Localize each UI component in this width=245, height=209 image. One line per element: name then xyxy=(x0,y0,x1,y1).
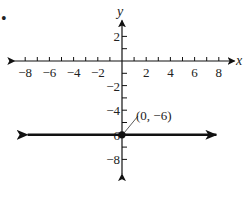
y-tick-label: −4 xyxy=(106,103,120,118)
x-axis-label: x xyxy=(235,53,243,68)
item-bullet: • xyxy=(1,10,7,27)
y-tick-label: −8 xyxy=(106,152,120,167)
x-tick-label: −8 xyxy=(18,65,32,80)
y-tick-label: 2 xyxy=(114,29,121,44)
axes xyxy=(14,20,234,174)
x-tick-label: −2 xyxy=(91,65,105,80)
x-tick-label: 6 xyxy=(191,65,198,80)
x-tick-label: −6 xyxy=(42,65,56,80)
x-tick-label: 4 xyxy=(167,65,174,80)
y-axis-label: y xyxy=(115,4,124,19)
x-tick-label: 2 xyxy=(143,65,150,80)
x-tick-label: −4 xyxy=(67,65,81,80)
y-tick-label: −2 xyxy=(106,79,120,94)
series-line-y-neg6 xyxy=(28,131,217,138)
tick-labels: −8−6−4−224682−2−4−6−8 xyxy=(18,29,222,167)
point-label: (0, −6) xyxy=(136,108,172,123)
x-tick-label: 8 xyxy=(216,65,223,80)
graph: • −8−6−4−224682−2−4−6−8 x y (0, −6) xyxy=(0,0,245,209)
